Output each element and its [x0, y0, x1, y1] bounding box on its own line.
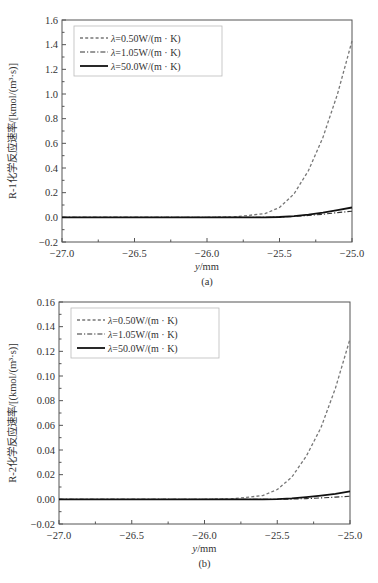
y-tick-label: −0.2 — [39, 237, 58, 248]
chart-panel-a: −0.20.00.20.40.60.81.01.21.41.6−27.0−26.… — [6, 15, 364, 289]
x-tick-label: −26.0 — [192, 530, 216, 541]
x-axis-title: y/mm — [192, 543, 217, 554]
y-tick-label: 1.6 — [45, 15, 58, 26]
y-tick-label: 0.8 — [45, 113, 58, 124]
chart-panel-b: −0.020.000.020.040.060.080.100.120.140.1… — [6, 297, 362, 571]
x-axis-title: y/mm — [194, 261, 219, 272]
x-tick-label: −25.0 — [340, 248, 364, 259]
x-tick-label: −25.0 — [338, 530, 362, 541]
y-tick-label: 0.14 — [37, 321, 56, 332]
x-tick-label: −26.5 — [120, 530, 144, 541]
panel-caption: (b) — [198, 558, 211, 570]
series-line — [59, 339, 350, 499]
x-tick-label: −27.0 — [47, 530, 71, 541]
legend-label: λ=1.05W/(m · K) — [110, 47, 181, 59]
x-tick-label: −26.0 — [195, 248, 219, 259]
y-tick-label: 0.12 — [37, 346, 55, 357]
x-tick-label: −27.0 — [50, 248, 74, 259]
y-tick-label: 0.0 — [45, 212, 58, 223]
x-tick-label: −25.5 — [265, 530, 289, 541]
y-tick-label: −0.02 — [31, 519, 55, 530]
y-tick-label: 0.08 — [37, 395, 55, 406]
legend-label: λ=0.50W/(m · K) — [110, 33, 181, 45]
legend-label: λ=50.0W/(m · K) — [107, 343, 178, 355]
y-tick-label: 1.4 — [45, 39, 59, 50]
x-tick-label: −25.5 — [267, 248, 291, 259]
x-tick-label: −26.5 — [122, 248, 146, 259]
y-tick-label: 0.2 — [45, 187, 58, 198]
legend-label: λ=1.05W/(m · K) — [107, 329, 178, 341]
y-axis-title: R-1化学反应速率/[kmol/(m³·s)] — [6, 63, 19, 199]
y-tick-label: 0.4 — [45, 163, 59, 174]
y-tick-label: 0.16 — [37, 297, 55, 308]
y-tick-label: 0.06 — [37, 420, 55, 431]
y-axis-title: R-2化学反应速率/[(kmol/(m³·s)] — [6, 343, 19, 483]
y-tick-label: 1.2 — [45, 64, 58, 75]
y-tick-label: 0.6 — [45, 138, 58, 149]
y-tick-label: 0.02 — [37, 469, 55, 480]
legend-label: λ=50.0W/(m · K) — [110, 61, 181, 73]
y-tick-label: 0.04 — [37, 445, 56, 456]
figure: −0.20.00.20.40.60.81.01.21.41.6−27.0−26.… — [0, 0, 378, 583]
y-tick-label: 1.0 — [45, 89, 58, 100]
legend-label: λ=0.50W/(m · K) — [107, 315, 178, 327]
y-tick-label: 0.00 — [37, 494, 55, 505]
panel-caption: (a) — [201, 276, 213, 288]
y-tick-label: 0.10 — [37, 371, 55, 382]
